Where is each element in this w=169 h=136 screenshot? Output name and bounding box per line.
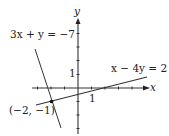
y-axis-arrow-icon xyxy=(76,18,81,24)
equation-label-1: 3x + y = −7 xyxy=(10,28,75,40)
x-axis-label: x xyxy=(150,81,156,93)
x-axis-arrow-icon xyxy=(143,86,150,91)
coordinate-graph: y x 1 1 3x + y = −7 x − 4y = 2 (−2, −1) xyxy=(0,0,169,136)
equation-label-2: x − 4y = 2 xyxy=(111,62,167,74)
y-axis-label: y xyxy=(73,5,81,17)
y-tick-label: 1 xyxy=(69,67,76,79)
intersection-label: (−2, −1) xyxy=(9,104,55,116)
intersection-point xyxy=(50,100,54,104)
x-tick-label: 1 xyxy=(89,92,96,104)
